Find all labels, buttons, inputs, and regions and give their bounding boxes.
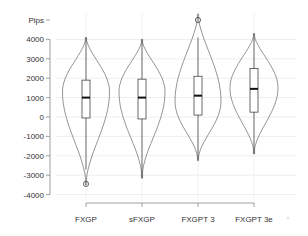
violin-fxgpt-3e (230, 34, 278, 154)
gridlines (56, 12, 296, 200)
y-axis: Pips-4000-3000-2000-10000100020003000400… (24, 16, 50, 200)
y-tick-label: 4000 (26, 35, 44, 44)
violin-chart: Pips-4000-3000-2000-10000100020003000400… (0, 0, 308, 236)
y-tick-label: 2000 (26, 74, 44, 83)
y-tick-label: -3000 (24, 171, 45, 180)
x-tick-label: FXGP (75, 215, 97, 224)
x-tick-label: sFXGP (129, 215, 155, 224)
y-tick-label: 1000 (26, 94, 44, 103)
iqr-box (250, 69, 258, 113)
x-tick-label: FXGPT 3 (181, 215, 215, 224)
artifact-dot (287, 217, 290, 220)
x-tick-label: FXGPT 3e (235, 215, 273, 224)
violin-sfxgp (119, 39, 165, 178)
y-tick-label: -2000 (24, 152, 45, 161)
iqr-box (82, 80, 90, 118)
iqr-box (138, 79, 146, 119)
violin-fxgp (63, 37, 110, 186)
violins (63, 14, 279, 186)
y-axis-label: Pips (28, 16, 44, 25)
x-axis: FXGPsFXGPFXGPT 3FXGPT 3e (75, 203, 273, 224)
y-tick-label: -4000 (24, 191, 45, 200)
y-tick-label: 0 (40, 113, 45, 122)
y-tick-label: -1000 (24, 132, 45, 141)
y-tick-label: 3000 (26, 55, 44, 64)
